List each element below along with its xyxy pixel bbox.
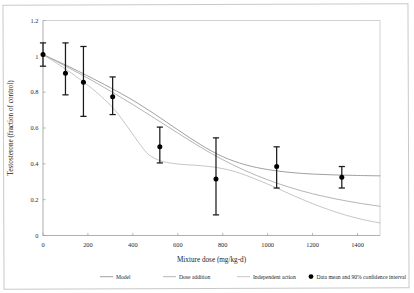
legend-label: Data mean and 90% confidence interval xyxy=(317,274,407,280)
data-point-marker xyxy=(274,164,279,169)
legend-label: Model xyxy=(116,274,131,280)
chart-legend: ModelDose additionIndependent actionData… xyxy=(100,274,407,280)
x-tick-label: 400 xyxy=(128,241,138,248)
data-point-marker xyxy=(110,94,115,99)
x-tick-label: 800 xyxy=(218,241,228,248)
y-tick-label: 0.4 xyxy=(31,160,40,167)
legend-label: Dose addition xyxy=(179,274,210,280)
x-tick-label: 1000 xyxy=(261,241,274,248)
curve-model xyxy=(43,55,380,176)
y-tick-label: 0.8 xyxy=(31,88,39,95)
model-curves xyxy=(43,55,380,223)
x-axis-title: Mixture dose (mg/kg-d) xyxy=(177,256,247,264)
y-tick-label: 1.2 xyxy=(31,17,39,24)
data-point-marker xyxy=(41,52,46,57)
data-point-marker xyxy=(63,71,68,76)
x-tick-label: 0 xyxy=(41,241,44,248)
curve-dose-addition xyxy=(43,55,380,207)
data-point-marker xyxy=(213,177,218,182)
y-tick-label: 0.2 xyxy=(31,196,39,203)
y-tick-label: 0 xyxy=(35,232,38,239)
y-axis-title: Testosterone (fraction of control) xyxy=(7,80,15,176)
y-tick-label: 0.6 xyxy=(31,124,39,131)
data-point-marker xyxy=(339,175,344,180)
error-bars xyxy=(40,43,345,215)
legend-swatch-dot xyxy=(309,274,314,279)
plot-area-border xyxy=(43,21,380,236)
testosterone-dose-response-chart: 0200400600800100012001400 00.20.40.60.81… xyxy=(0,0,414,293)
plot-frame xyxy=(43,21,380,236)
legend-label: Independent action xyxy=(253,274,296,280)
figure-root: 0200400600800100012001400 00.20.40.60.81… xyxy=(0,0,414,293)
x-tick-label: 1400 xyxy=(351,241,364,248)
data-point-marker xyxy=(81,80,86,85)
data-point-marker xyxy=(157,144,162,149)
x-tick-label: 200 xyxy=(83,241,93,248)
x-tick-label: 600 xyxy=(173,241,183,248)
y-tick-label: 1 xyxy=(35,53,38,60)
x-tick-label: 1200 xyxy=(306,241,319,248)
